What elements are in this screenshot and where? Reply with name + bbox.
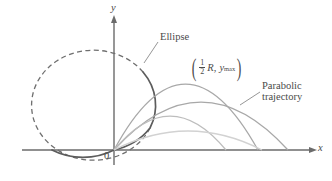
parabolic-trajectory-label: Parabolic trajectory <box>262 80 302 102</box>
y-axis-label: y <box>111 2 116 13</box>
ellipse-label: Ellipse <box>160 31 189 42</box>
fraction-numerator: 1 <box>199 59 205 67</box>
parabolic-label-line-2: trajectory <box>262 91 302 102</box>
close-paren: ) <box>237 55 242 80</box>
trajectory-path-4 <box>114 131 262 150</box>
ellipse-solid-arc <box>52 72 156 157</box>
fraction-denominator: 2 <box>199 68 205 76</box>
y-axis-arrowhead <box>111 15 117 23</box>
apex-point-label: ( 1 2 R , y max ) <box>190 55 244 80</box>
label-comma: , <box>214 62 217 73</box>
height-subscript: max <box>224 66 235 73</box>
open-paren: ( <box>192 55 197 80</box>
one-half-fraction: 1 2 <box>199 59 205 76</box>
x-axis-arrowhead <box>309 147 317 153</box>
origin-label: 0 <box>104 150 109 161</box>
parabolic-leader-line <box>240 92 260 105</box>
ellipse-leader-line <box>144 42 158 63</box>
parabolic-label-line-1: Parabolic <box>262 80 302 91</box>
x-axis-label: x <box>318 142 323 153</box>
